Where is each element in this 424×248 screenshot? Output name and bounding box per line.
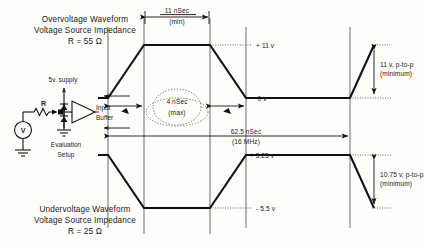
period-frequency: (16 MHz)	[232, 138, 260, 146]
supply-label: 5v. supply	[49, 76, 79, 84]
bottom-amplitude-qualifier: (minimum)	[380, 180, 412, 188]
bottom-title-line1: Undervoltage Waveform	[39, 205, 130, 214]
clamp-diode-lower	[60, 116, 68, 122]
bottom-title-line2: Voltage Source Impedance	[34, 216, 136, 225]
resistor-label: R	[41, 100, 46, 107]
reference-gridlines	[108, 18, 350, 234]
buffer-label-line1: Input	[96, 104, 111, 112]
top-title-block: Overvoltage Waveform Voltage Source Impe…	[34, 15, 136, 46]
waveform-diagram-page: Overvoltage Waveform Voltage Source Impe…	[0, 0, 424, 248]
period-dimension: 62.5 nSec (16 MHz)	[110, 128, 348, 146]
voltage-label-0v: 0 v	[257, 95, 267, 102]
period-value: 62.5 nSec	[231, 128, 262, 135]
input-buffer-symbol	[72, 101, 95, 123]
edge-time-callout: 4 nSec (max)	[110, 89, 244, 126]
bottom-title-block: Undervoltage Waveform Voltage Source Imp…	[34, 205, 136, 236]
voltage-label-plus-11v: + 11 v	[256, 42, 275, 49]
buffer-label-line2: Buffer	[96, 114, 114, 121]
top-amplitude-value: 11 v, p-to-p	[380, 61, 414, 69]
top-amplitude-qualifier: (minimum)	[380, 70, 412, 78]
pulse-width-qualifier: (min)	[169, 18, 185, 26]
undervoltage-waveform: + 5.25 v - 5.5 v	[98, 152, 392, 212]
edge-time-qualifier: (max)	[168, 109, 185, 117]
voltage-label-minus-5-5v: - 5.5 v	[256, 205, 276, 212]
ground-symbol-diode	[57, 130, 71, 136]
pulse-width-value: 11 nSec	[165, 7, 190, 14]
top-title-line2: Voltage Source Impedance	[34, 26, 136, 35]
top-title-impedance: R = 55 Ω	[68, 37, 102, 46]
voltage-source-letter: V	[21, 127, 26, 134]
clamp-diode-upper	[60, 104, 68, 110]
evaluation-setup-circuit: 5v. supply V R	[15, 76, 115, 159]
top-title-line1: Overvoltage Waveform	[42, 15, 128, 24]
diagram-canvas: Overvoltage Waveform Voltage Source Impe…	[0, 0, 424, 248]
overvoltage-trace	[98, 45, 374, 98]
pulse-width-dimension: 11 nSec (min)	[145, 7, 209, 26]
test-node-marker	[58, 110, 63, 115]
resistor-flow-arrow	[52, 110, 58, 115]
edge-time-value: 4 nSec	[166, 98, 188, 105]
rise-edge-pointer	[121, 107, 130, 114]
ground-symbol-source	[15, 150, 31, 156]
undervoltage-trace	[98, 155, 374, 208]
bottom-amplitude-callout: 10.75 v, p-to-p (minimum)	[374, 160, 424, 204]
top-amplitude-callout: 11 v, p-to-p (minimum)	[374, 50, 414, 94]
fall-edge-pointer	[223, 107, 232, 114]
overvoltage-waveform: + 11 v 0 v	[98, 42, 392, 102]
edge-time-ellipse	[153, 89, 201, 125]
setup-caption-line2: Setup	[58, 151, 75, 159]
voltage-label-plus-5-25v: + 5.25 v	[250, 152, 275, 159]
setup-caption-line1: Evaluation	[51, 141, 82, 148]
bottom-title-impedance: R = 25 Ω	[68, 227, 102, 236]
bottom-amplitude-value: 10.75 v, p-to-p	[380, 171, 424, 179]
